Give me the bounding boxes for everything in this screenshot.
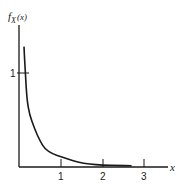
x-tick-label-3: 3 (141, 171, 147, 182)
x-tick-label-2: 2 (100, 171, 106, 182)
y-tick-label-1: 1 (10, 68, 16, 79)
y-axis-label-arg: (x) (17, 12, 27, 22)
density-curve (24, 47, 132, 166)
plot-canvas: 1 1 2 3 x fX(x) (0, 0, 184, 187)
x-axis-label: x (169, 161, 175, 173)
x-tick-label-1: 1 (58, 171, 64, 182)
density-plot: 1 1 2 3 x fX(x) (0, 0, 184, 187)
y-axis-label: fX(x) (8, 10, 27, 25)
